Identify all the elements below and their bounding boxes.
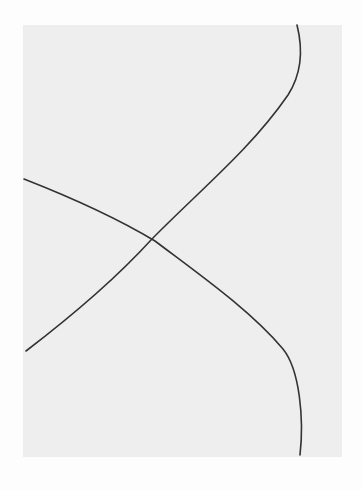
curve-line-a bbox=[26, 25, 301, 351]
sketch-lines bbox=[0, 0, 362, 490]
curve-line-b bbox=[24, 179, 301, 455]
